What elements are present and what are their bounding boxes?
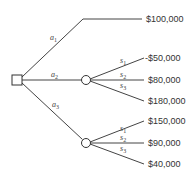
state-label-a3-s3: s3	[120, 144, 126, 154]
payoff-a2-s2: $80,000	[148, 75, 181, 85]
chance-node-a3	[82, 139, 91, 148]
state-label-a2-s2: s2	[120, 70, 126, 80]
branch-label-a2: a2	[51, 70, 58, 80]
state-label-a3-s2: s2	[120, 133, 126, 143]
decision-tree-diagram: a1 $100,000 a2 s1 s2 s3 -$50,000 $80,000…	[0, 0, 188, 177]
branch-a2: a2 s1 s2 s3 -$50,000 $80,000 $180,000	[22, 53, 186, 106]
state-label-a2-s3: s3	[120, 81, 126, 91]
payoff-a3-s1: $150,000	[148, 116, 186, 126]
payoff-a2-s1: -$50,000	[145, 53, 181, 63]
branch-a1: a1 $100,000	[22, 14, 184, 77]
branch-label-a1: a1	[50, 33, 57, 43]
branch-label-a3: a3	[52, 100, 59, 110]
state-label-a2-s1: s1	[120, 56, 126, 66]
payoff-a3-s2: $90,000	[148, 138, 181, 148]
decision-node	[12, 75, 22, 85]
payoff-a1: $100,000	[146, 14, 184, 24]
payoff-a3-s3: $40,000	[148, 159, 181, 169]
payoff-a2-s3: $180,000	[148, 96, 186, 106]
chance-node-a2	[82, 76, 91, 85]
